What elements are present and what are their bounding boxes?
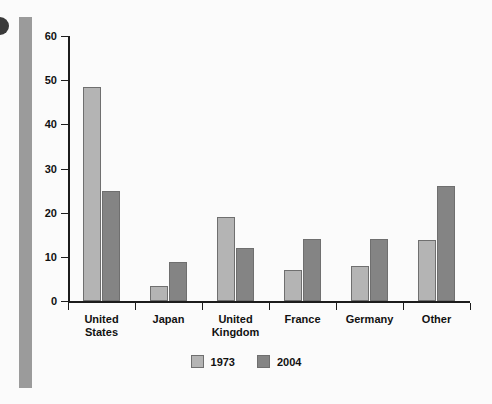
x-tick-mark <box>336 303 337 310</box>
bar-group <box>284 36 322 301</box>
x-category-label: United Kingdom <box>212 313 260 339</box>
y-tick-label: 30 <box>45 163 57 175</box>
y-tick-mark <box>61 169 68 170</box>
x-category-label: Japan <box>153 313 185 326</box>
x-tick-mark <box>470 303 471 310</box>
bar-2004 <box>370 239 388 301</box>
bar-2004 <box>303 239 321 301</box>
chart-figure: 0102030405060 United StatesJapanUnited K… <box>0 0 492 404</box>
legend-label: 1973 <box>211 356 235 368</box>
bullet-dot-decoration <box>0 17 9 35</box>
y-tick-mark <box>61 36 68 37</box>
x-tick-mark <box>269 303 270 310</box>
bar-1973 <box>217 217 235 301</box>
x-category-label: France <box>284 313 320 326</box>
bar-group <box>150 36 188 301</box>
bar-1973 <box>284 270 302 301</box>
x-category-label: Other <box>422 313 451 326</box>
plot-area: 0102030405060 <box>68 36 470 303</box>
bar-group <box>217 36 255 301</box>
y-tick-label: 40 <box>45 118 57 130</box>
x-category-label: Germany <box>346 313 394 326</box>
chart-legend: 19732004 <box>0 355 492 368</box>
y-tick-label: 60 <box>45 30 57 42</box>
y-axis-line <box>68 36 70 303</box>
bar-1973 <box>418 240 436 301</box>
x-tick-mark <box>68 303 69 310</box>
y-tick-mark <box>61 80 68 81</box>
legend-item-2004: 2004 <box>257 355 301 368</box>
bar-2004 <box>169 262 187 301</box>
bar-group <box>418 36 456 301</box>
bar-group <box>351 36 389 301</box>
y-tick-mark <box>61 213 68 214</box>
bar-2004 <box>236 248 254 301</box>
bar-2004 <box>437 186 455 301</box>
legend-label: 2004 <box>277 356 301 368</box>
x-tick-mark <box>202 303 203 310</box>
y-tick-mark <box>61 257 68 258</box>
bar-1973 <box>83 87 101 301</box>
x-tick-mark <box>135 303 136 310</box>
bar-1973 <box>150 286 168 301</box>
x-category-label: United States <box>84 313 118 339</box>
left-vertical-rule-decoration <box>19 17 32 388</box>
y-tick-label: 10 <box>45 251 57 263</box>
y-tick-label: 50 <box>45 74 57 86</box>
y-tick-mark <box>61 301 68 302</box>
y-tick-label: 20 <box>45 207 57 219</box>
y-tick-mark <box>61 124 68 125</box>
legend-item-1973: 1973 <box>191 355 235 368</box>
legend-swatch-icon <box>257 355 270 368</box>
bar-group <box>83 36 121 301</box>
x-tick-mark <box>403 303 404 310</box>
bar-2004 <box>102 191 120 301</box>
bar-1973 <box>351 266 369 301</box>
legend-swatch-icon <box>191 355 204 368</box>
y-tick-label: 0 <box>51 295 57 307</box>
